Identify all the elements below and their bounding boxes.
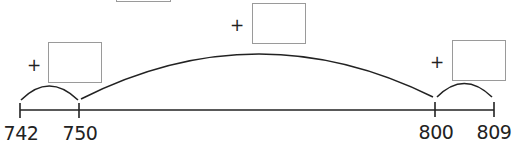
jump-arc-750-800 [81, 54, 433, 99]
answer-box-cropped[interactable] [116, 0, 171, 2]
answer-box-jump-2[interactable] [252, 3, 306, 44]
label-800: 800 [419, 123, 454, 142]
label-742: 742 [4, 124, 39, 143]
plus-sign-3: + [430, 54, 444, 71]
label-809: 809 [477, 123, 512, 142]
jump-arc-742-750 [21, 86, 78, 100]
jump-arc-800-809 [437, 84, 492, 98]
label-750: 750 [63, 124, 98, 143]
answer-box-jump-1[interactable] [48, 42, 102, 83]
plus-sign-1: + [27, 57, 41, 74]
number-line-diagram: + + + 742 750 800 809 [0, 0, 526, 154]
answer-box-jump-3[interactable] [452, 40, 506, 81]
plus-sign-2: + [230, 17, 244, 34]
